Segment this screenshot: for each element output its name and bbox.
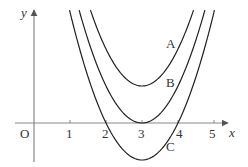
x-tick-label-2: 2 xyxy=(102,126,109,141)
curve-a xyxy=(90,10,193,86)
y-axis-label: y xyxy=(19,5,27,20)
origin-label: O xyxy=(20,126,29,141)
x-axis-label: x xyxy=(228,125,235,140)
x-tick-label-1: 1 xyxy=(66,126,73,141)
curve-label-c: C xyxy=(166,139,175,154)
x-tick-label-4: 4 xyxy=(176,126,183,141)
x-tick-label-3: 3 xyxy=(138,126,145,141)
x-tick-label-5: 5 xyxy=(209,126,216,141)
curve-label-a: A xyxy=(166,36,176,51)
parabola-chart: y x O 1 2 3 4 5 A B C xyxy=(0,0,248,167)
curve-label-b: B xyxy=(166,75,175,90)
